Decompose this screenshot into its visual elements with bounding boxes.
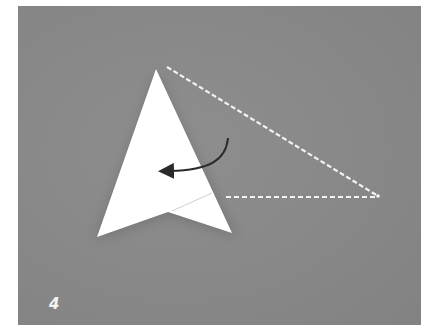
- paper-arrowhead-shape: [97, 69, 232, 237]
- dashed-outline-vertex: [376, 194, 380, 198]
- step-number: 4: [49, 297, 59, 312]
- fold-diagram: [0, 0, 431, 336]
